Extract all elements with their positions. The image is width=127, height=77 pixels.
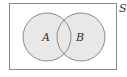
venn-diagram: A B S [0,0,127,77]
set-b-label: B [75,31,84,44]
venn-svg: A B S [0,0,127,77]
set-a-label: A [41,31,50,44]
universe-label: S [119,2,127,15]
